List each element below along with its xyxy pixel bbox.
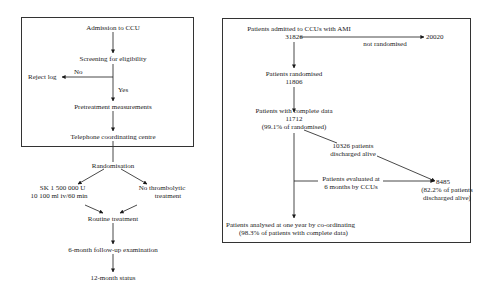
node-admitted-count: 31826 — [279, 33, 309, 41]
node-complete-label: Patients with complete data — [249, 107, 339, 115]
node-randomisation: Randomisation — [78, 162, 148, 170]
arrow-sk-routine — [85, 205, 103, 213]
node-evaluated-line1: Patients evaluated at — [318, 175, 384, 183]
node-nothrombo-line2: treatment — [140, 192, 196, 200]
node-randomised-count: 11806 — [279, 78, 309, 86]
node-not-randomised-count: 20020 — [426, 33, 444, 41]
node-complete-pct: (99.1% of randomised) — [254, 123, 334, 131]
node-sk-line1: SK 1 500 000 U — [30, 184, 95, 192]
node-routine: Routine treatment — [78, 215, 148, 223]
node-12month: 12-month status — [78, 274, 148, 282]
node-evaluated-count: 8485 — [436, 178, 450, 186]
node-analysed-line2: (98.3% of patients with complete data) — [239, 229, 348, 237]
left-flowchart — [21, 17, 194, 147]
node-analysed-line1: Patients analysed at one year by co-ordi… — [226, 221, 355, 229]
node-sk-line2: 10 100 ml iv/60 min — [24, 192, 94, 200]
node-evaluated-line2: 6 months by CCUs — [318, 183, 384, 191]
arrow-random-sk — [78, 169, 104, 184]
node-complete-count: 11712 — [279, 115, 309, 123]
node-reject-log: Reject log — [28, 73, 57, 81]
node-pretreatment: Pretreatment measurements — [58, 103, 168, 111]
arrow-nothrombo-routine — [120, 205, 137, 213]
arrow-random-nothrombo — [121, 169, 147, 184]
node-screening: Screening for eligibility — [63, 55, 163, 63]
node-followup: 6-month follow-up examination — [58, 246, 168, 254]
label-yes: Yes — [118, 86, 128, 94]
node-randomised-label: Patients randomised — [264, 70, 324, 78]
label-not-randomised: not randomised — [360, 40, 410, 48]
node-evaluated-pct-line1: (82.2% of patients — [417, 186, 477, 194]
node-admission: Admission to CCU — [63, 24, 163, 32]
node-evaluated-pct-line2: discharged alive) — [417, 194, 477, 202]
node-telephone: Telephone coordinating centre — [58, 133, 168, 141]
node-discharged-line2: discharged alive — [328, 150, 378, 158]
node-nothrombo-line1: No thrombolytic — [134, 184, 190, 192]
node-discharged-line1: 10326 patients — [328, 142, 378, 150]
node-admitted-label: Patients admitted to CCUs with AMI — [244, 25, 354, 33]
label-no: No — [74, 68, 83, 76]
